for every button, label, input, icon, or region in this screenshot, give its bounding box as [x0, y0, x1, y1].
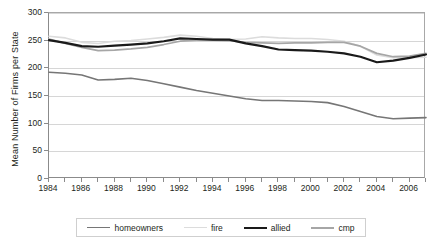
x-tick-mark [97, 178, 98, 182]
legend-swatch-allied [244, 227, 267, 229]
legend-swatch-homeowners [87, 227, 110, 228]
x-tick-label: 2000 [301, 183, 320, 193]
x-tick-label: 2004 [366, 183, 385, 193]
x-tick-label: 1988 [104, 183, 123, 193]
x-tick-label: 1986 [71, 183, 90, 193]
legend-swatch-fire [184, 227, 207, 228]
x-tick-mark [261, 178, 262, 182]
y-tick-label: 100 [28, 118, 42, 128]
x-tick-mark [392, 178, 393, 182]
x-tick-mark [130, 178, 131, 182]
series-container [49, 13, 426, 179]
x-tick-mark [81, 178, 82, 182]
legend-label: allied [271, 223, 291, 233]
x-axis-tick-labels: 1984198619881990199219941996199820002002… [48, 183, 425, 197]
x-tick-label: 2002 [334, 183, 353, 193]
legend-label: cmp [338, 223, 354, 233]
y-axis-tick-labels: 050100150200250300 [0, 0, 48, 190]
y-tick-label: 50 [33, 145, 42, 155]
x-tick-mark [294, 178, 295, 182]
x-tick-mark [48, 178, 49, 182]
x-tick-mark [409, 178, 410, 182]
legend-item-cmp[interactable]: cmp [311, 223, 354, 233]
x-tick-label: 1992 [170, 183, 189, 193]
legend-item-homeowners[interactable]: homeowners [87, 223, 163, 233]
x-tick-label: 1994 [202, 183, 221, 193]
y-tick-label: 200 [28, 62, 42, 72]
y-tick-label: 0 [37, 173, 42, 183]
x-tick-label: 2006 [399, 183, 418, 193]
x-tick-label: 1998 [268, 183, 287, 193]
x-tick-mark [114, 178, 115, 182]
x-tick-mark [425, 178, 426, 182]
chart-legend: homeownersfirealliedcmp [76, 218, 366, 237]
y-tick-label: 300 [28, 7, 42, 17]
line-chart: Mean Number of Firms per State 050100150… [0, 0, 443, 248]
x-tick-mark [64, 178, 65, 182]
x-tick-mark [343, 178, 344, 182]
x-tick-mark [327, 178, 328, 182]
legend-item-fire[interactable]: fire [184, 223, 223, 233]
x-tick-mark [359, 178, 360, 182]
x-tick-mark [163, 178, 164, 182]
x-tick-label: 1996 [235, 183, 254, 193]
y-tick-label: 250 [28, 35, 42, 45]
x-tick-label: 1990 [137, 183, 156, 193]
legend-label: homeowners [114, 223, 163, 233]
legend-item-allied[interactable]: allied [244, 223, 291, 233]
legend-swatch-cmp [311, 227, 334, 229]
x-tick-mark [196, 178, 197, 182]
y-tick-label: 150 [28, 90, 42, 100]
legend-label: fire [211, 223, 223, 233]
series-line-homeowners [49, 72, 426, 118]
x-tick-mark [310, 178, 311, 182]
x-tick-mark [228, 178, 229, 182]
x-tick-label: 1984 [39, 183, 58, 193]
x-tick-mark [179, 178, 180, 182]
x-tick-mark [277, 178, 278, 182]
x-tick-mark [376, 178, 377, 182]
plot-area [48, 12, 425, 178]
x-tick-mark [146, 178, 147, 182]
x-tick-mark [212, 178, 213, 182]
x-tick-mark [245, 178, 246, 182]
